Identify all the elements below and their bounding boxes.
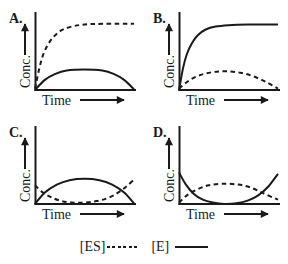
y-axis-label: Conc. bbox=[18, 55, 33, 88]
panel-label: A. bbox=[9, 11, 23, 26]
x-axis-label: Time bbox=[186, 93, 215, 108]
panel-label: C. bbox=[9, 125, 23, 140]
panel-a: A. Conc. Time bbox=[8, 8, 140, 112]
enzyme-kinetics-figure: A. Conc. Time B. Conc. Time bbox=[0, 0, 288, 264]
x-axis-label: Time bbox=[42, 93, 71, 108]
panel-a-plot: A. Conc. Time bbox=[8, 8, 140, 112]
legend-label-e: [E] bbox=[151, 239, 169, 255]
panel-label: D. bbox=[153, 125, 167, 140]
panel-grid: A. Conc. Time B. Conc. Time bbox=[0, 0, 288, 226]
panel-label: B. bbox=[153, 11, 166, 26]
panel-d-plot: D. Conc. Time bbox=[152, 122, 284, 226]
x-axis-label: Time bbox=[42, 207, 71, 222]
y-axis-label: Conc. bbox=[18, 169, 33, 202]
es-curve bbox=[35, 180, 134, 203]
solid-line-sample bbox=[175, 246, 208, 248]
panel-b: B. Conc. Time bbox=[152, 8, 284, 112]
legend: [ES] [E] bbox=[0, 239, 288, 255]
panel-c: C. Conc. Time bbox=[8, 122, 140, 226]
es-curve bbox=[179, 71, 278, 88]
y-axis-label: Conc. bbox=[162, 169, 177, 202]
panel-d: D. Conc. Time bbox=[152, 122, 284, 226]
e-curve bbox=[35, 70, 134, 91]
y-axis-label: Conc. bbox=[162, 55, 177, 88]
dashed-line-sample bbox=[107, 246, 137, 248]
legend-label-es: [ES] bbox=[80, 239, 106, 255]
x-axis-label: Time bbox=[186, 207, 215, 222]
es-curve bbox=[35, 24, 134, 89]
panel-c-plot: C. Conc. Time bbox=[8, 122, 140, 226]
e-curve bbox=[179, 172, 278, 204]
panel-b-plot: B. Conc. Time bbox=[152, 8, 284, 112]
